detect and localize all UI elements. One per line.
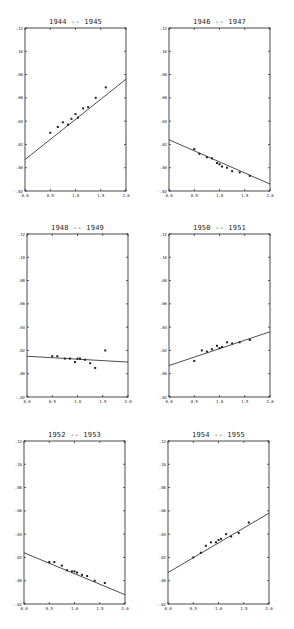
data-point — [200, 552, 202, 554]
x-tick-label: 1.5 — [240, 606, 248, 611]
y-tick-label: -.02 — [156, 602, 166, 607]
y-tick-label: .08 — [159, 485, 167, 490]
regression-line — [168, 513, 269, 572]
x-tick-label: 2.0 — [265, 606, 273, 611]
data-point — [205, 545, 207, 547]
y-tick-label: .12 — [159, 439, 167, 444]
y-tick-label: .04 — [159, 532, 167, 537]
data-point — [225, 533, 227, 535]
y-tick-label: .10 — [159, 462, 167, 467]
data-point — [192, 556, 194, 558]
x-tick-label: 1.0 — [215, 606, 223, 611]
data-point — [248, 522, 250, 524]
data-point — [218, 539, 220, 541]
scatter-plot: 0.00.51.01.52.0-.02.00.02.04.06.08.10.12 — [0, 0, 294, 629]
x-tick-label: 0.5 — [190, 606, 198, 611]
data-point — [215, 541, 217, 543]
data-point — [220, 538, 222, 540]
y-tick-label: .06 — [159, 508, 167, 513]
data-point — [230, 535, 232, 537]
x-tick-label: 0.0 — [164, 606, 172, 611]
y-tick-label: .00 — [159, 578, 167, 583]
data-point — [238, 532, 240, 534]
data-point — [210, 541, 212, 543]
y-tick-label: .02 — [159, 555, 167, 560]
